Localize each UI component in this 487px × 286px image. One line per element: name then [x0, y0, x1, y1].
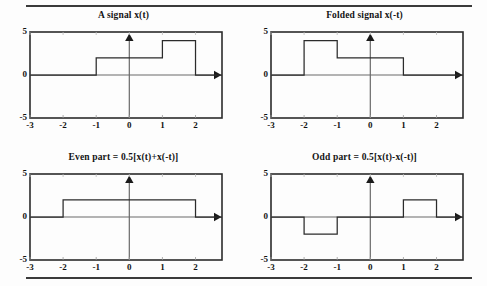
x-tick-label: 0	[119, 262, 139, 272]
x-tick-label: -2	[294, 262, 314, 272]
y-tick-label: 5	[10, 26, 27, 36]
figure-page: A signal x(t) -505-3-2-1012 Folded signa…	[0, 0, 487, 286]
y-tick-label: 0	[10, 69, 27, 79]
x-tick-label: 2	[427, 120, 447, 130]
y-tick-label: 0	[251, 69, 268, 79]
x-tick-label: -3	[20, 262, 40, 272]
x-tick-label: -1	[327, 262, 347, 272]
signal-waveform	[30, 41, 222, 75]
x-tick-label: 1	[152, 120, 172, 130]
x-tick-label: 2	[186, 262, 206, 272]
x-tick-label: 2	[186, 120, 206, 130]
chart-panel-even-part: Even part = 0.5[x(t)+x(-t)] -505-3-2-101…	[6, 152, 241, 282]
plot-area: -505-3-2-1012	[6, 10, 241, 140]
signal-waveform	[30, 200, 222, 217]
x-tick-label: 0	[360, 120, 380, 130]
plot-area: -505-3-2-1012	[247, 10, 482, 140]
x-tick-label: 1	[393, 120, 413, 130]
chart-panel-a-signal: A signal x(t) -505-3-2-1012	[6, 10, 241, 140]
signal-waveform	[271, 41, 463, 75]
x-tick-label: 0	[119, 120, 139, 130]
x-tick-label: -3	[20, 120, 40, 130]
top-horizontal-rule	[26, 5, 472, 7]
y-tick-label: 0	[10, 211, 27, 221]
chart-panel-folded-signal: Folded signal x(-t) -505-3-2-1012	[247, 10, 482, 140]
x-tick-label: -2	[53, 262, 73, 272]
plot-area: -505-3-2-1012	[6, 152, 241, 282]
y-tick-label: 5	[251, 168, 268, 178]
x-tick-label: -1	[327, 120, 347, 130]
y-tick-label: 0	[251, 211, 268, 221]
chart-panel-odd-part: Odd part = 0.5[x(t)-x(-t)] -505-3-2-1012	[247, 152, 482, 282]
x-tick-label: 2	[427, 262, 447, 272]
x-tick-label: -3	[261, 120, 281, 130]
x-tick-label: -2	[53, 120, 73, 130]
x-tick-label: -1	[86, 120, 106, 130]
x-tick-label: -2	[294, 120, 314, 130]
plot-area: -505-3-2-1012	[247, 152, 482, 282]
x-tick-label: -3	[261, 262, 281, 272]
y-tick-label: 5	[10, 168, 27, 178]
x-tick-label: 1	[152, 262, 172, 272]
y-tick-label: 5	[251, 26, 268, 36]
x-tick-label: 1	[393, 262, 413, 272]
x-tick-label: 0	[360, 262, 380, 272]
x-tick-label: -1	[86, 262, 106, 272]
